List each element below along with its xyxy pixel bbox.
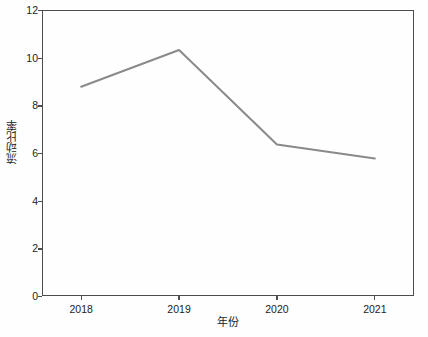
x-tick-label: 2019 xyxy=(149,304,209,315)
x-tick-label: 2021 xyxy=(345,304,405,315)
y-tick-label: 12 xyxy=(2,5,42,15)
x-axis-title: 年份 xyxy=(0,316,428,328)
line-chart: 024681012 2018201920202021 年份 流动比率 xyxy=(0,0,428,337)
x-tick-label: 2018 xyxy=(51,304,111,315)
y-tick-label: 10 xyxy=(2,53,42,63)
y-tick-label: 4 xyxy=(2,196,42,206)
x-tick-mark xyxy=(276,296,277,300)
y-axis-title: 流动比率 xyxy=(6,120,20,164)
x-tick-label: 2020 xyxy=(247,304,307,315)
x-tick-mark xyxy=(374,296,375,300)
x-tick-mark xyxy=(178,296,179,300)
x-tick-mark xyxy=(81,296,82,300)
y-tick-label: 8 xyxy=(2,100,42,110)
y-tick-label: 0 xyxy=(2,291,42,301)
y-tick-label: 2 xyxy=(2,243,42,253)
plot-area-frame xyxy=(42,10,414,296)
